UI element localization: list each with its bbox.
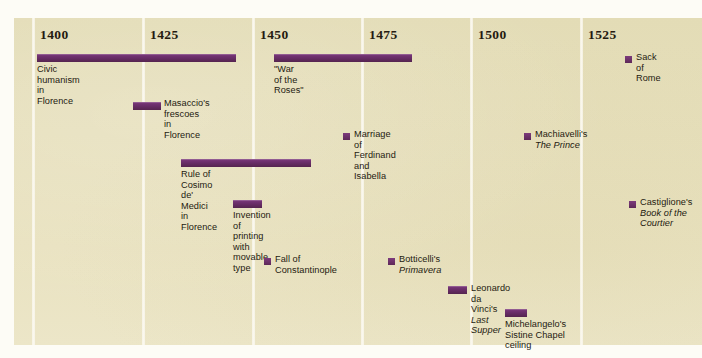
event-label-marriage-ferdinand-isabella: Marriage of Ferdinand and Isabella xyxy=(354,129,396,182)
event-label-war-of-the-roses: "War of the Roses" xyxy=(274,64,304,96)
timeline-panel: 140014251450147515001525 Civic humanism … xyxy=(14,18,702,345)
event-bar-war-of-the-roses xyxy=(274,54,412,62)
event-label-sack-of-rome: Sack of Rome xyxy=(636,52,661,84)
gridline-1525 xyxy=(580,18,583,345)
event-title-italic-machiavelli-the-prince: The Prince xyxy=(535,140,580,150)
event-marker-marriage-ferdinand-isabella xyxy=(343,133,350,140)
event-label-masaccio-frescoes: Masaccio's frescoes in Florence xyxy=(164,98,210,140)
event-title-italic-leonardo-last-supper: Last Supper xyxy=(471,315,501,336)
event-bar-rule-of-cosimo-de-medici xyxy=(181,159,311,167)
event-label-fall-of-constantinople: Fall of Constantinople xyxy=(275,254,337,275)
event-label-civic-humanism: Civic humanism in Florence xyxy=(37,64,80,106)
event-marker-castiglione-book-of-the-courtier xyxy=(629,201,636,208)
gridline-1450 xyxy=(252,18,255,345)
year-label-1400: 1400 xyxy=(40,27,69,43)
event-label-machiavelli-the-prince: Machiavelli's The Prince xyxy=(535,129,587,150)
event-bar-invention-of-printing xyxy=(233,200,262,208)
event-label-michelangelo-sistine-chapel: Michelangelo's Sistine Chapel ceiling xyxy=(505,319,566,351)
gridline-1425 xyxy=(142,18,145,345)
year-label-1475: 1475 xyxy=(369,27,398,43)
event-bar-civic-humanism xyxy=(37,54,236,62)
event-bar-leonardo-last-supper xyxy=(448,286,467,294)
event-label-rule-of-cosimo-de-medici: Rule of Cosimo de' Medici in Florence xyxy=(181,169,217,233)
event-label-botticelli-primavera: Botticelli's Primavera xyxy=(399,254,441,275)
gridline-1400 xyxy=(32,18,35,345)
year-label-1500: 1500 xyxy=(478,27,507,43)
year-label-1450: 1450 xyxy=(260,27,289,43)
event-bar-michelangelo-sistine-chapel xyxy=(505,309,527,317)
year-label-1525: 1525 xyxy=(588,27,617,43)
event-marker-machiavelli-the-prince xyxy=(524,133,531,140)
event-label-castiglione-book-of-the-courtier: Castiglione's Book of the Courtier xyxy=(640,197,692,229)
event-marker-botticelli-primavera xyxy=(388,258,395,265)
year-label-1425: 1425 xyxy=(150,27,179,43)
event-bar-masaccio-frescoes xyxy=(133,102,161,110)
event-title-italic-castiglione-book-of-the-courtier: Book of the Courtier xyxy=(640,208,687,229)
event-marker-sack-of-rome xyxy=(625,56,632,63)
event-marker-fall-of-constantinople xyxy=(264,258,271,265)
event-title-italic-botticelli-primavera: Primavera xyxy=(399,265,441,275)
